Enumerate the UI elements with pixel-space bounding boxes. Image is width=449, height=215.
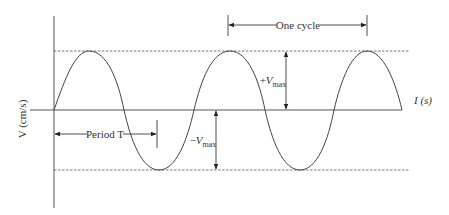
one-cycle-label: One cycle bbox=[276, 19, 320, 31]
plus-vmax-label: +Vmax bbox=[260, 74, 287, 89]
x-axis-label: I (s) bbox=[413, 94, 432, 107]
minus-vmax-label: −Vmax bbox=[190, 134, 217, 149]
period-label: Period T bbox=[86, 128, 124, 140]
sine-wave-diagram: One cycle Period T +Vmax −Vmax V (cm/s) … bbox=[0, 0, 449, 215]
y-axis-label: V (cm/s) bbox=[16, 99, 29, 138]
